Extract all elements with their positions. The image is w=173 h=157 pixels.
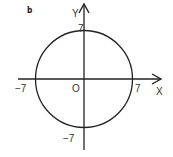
panel-label: b bbox=[27, 5, 33, 15]
y-tick-pos: 7 bbox=[78, 23, 84, 34]
x-tick-neg: −7 bbox=[15, 83, 27, 94]
y-tick-neg: −7 bbox=[63, 133, 75, 144]
circle-diagram: b Y X O 7 −7 −7 7 bbox=[0, 0, 173, 157]
x-tick-pos: 7 bbox=[135, 83, 141, 94]
x-axis-label: X bbox=[156, 86, 163, 97]
origin-label: O bbox=[72, 83, 80, 94]
y-axis-label: Y bbox=[72, 8, 79, 19]
